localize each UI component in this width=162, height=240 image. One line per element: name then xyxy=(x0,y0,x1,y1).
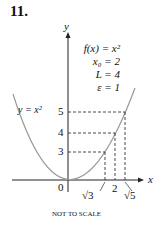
x-axis-label: x xyxy=(148,173,153,185)
equation-x0: x₀ = 2 xyxy=(70,55,120,68)
x-tick-sqrt5: √5 xyxy=(124,189,136,201)
equation-L: L = 4 xyxy=(70,68,120,81)
not-to-scale-note: NOT TO SCALE xyxy=(52,210,101,218)
curve-label: y = x² xyxy=(18,104,42,115)
y-axis-label: y xyxy=(64,20,69,32)
equation-f: f(x) = x² xyxy=(70,42,120,55)
y-tick-4: 4 xyxy=(58,126,64,138)
y-tick-5: 5 xyxy=(58,105,64,117)
y-tick-3: 3 xyxy=(58,145,64,157)
origin-label: 0 xyxy=(58,181,64,193)
equation-epsilon: ε = 1 xyxy=(70,81,120,94)
x-tick-2: 2 xyxy=(112,182,118,194)
x-tick-sqrt3: √3 xyxy=(82,189,94,201)
equations-block: f(x) = x² x₀ = 2 L = 4 ε = 1 xyxy=(70,42,120,94)
